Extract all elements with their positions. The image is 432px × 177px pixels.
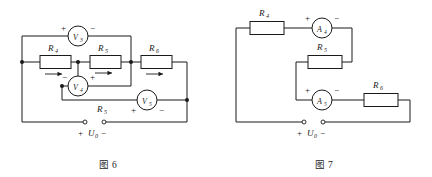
resistor-r5-body [308, 56, 342, 69]
rheostat-r5-top-body [90, 56, 121, 69]
ammeter-a5-plus-sign: + [305, 85, 310, 95]
resistor-r6-label: R [372, 80, 379, 90]
ammeter-a5 [312, 90, 332, 110]
rheostat-r6-subscript: 6 [156, 48, 159, 54]
source-subscript: 0 [95, 133, 98, 139]
figure-6: V 3 + − R 4 R 5 R 6 [0, 0, 216, 177]
wire-source-left [236, 28, 304, 122]
rheostat-r4-label: R [47, 43, 54, 53]
ammeter-a5-label: A [316, 97, 322, 106]
resistor-r6-body [364, 94, 398, 107]
wire-r6-to-right-rail [172, 62, 187, 100]
figure-7: R 4 A 4 + − R 5 A 5 + − [216, 0, 432, 177]
node-dot-r5-r6 [129, 60, 133, 64]
figure-6-caption: 图 6 [0, 157, 216, 171]
figure-6-circuit: V 3 + − R 4 R 5 R 6 [0, 0, 216, 150]
voltmeter-v3-plus-sign: + [61, 23, 66, 33]
rheostat-r4-subscript: 4 [55, 48, 58, 54]
voltmeter-v4-plus-sign: + [90, 72, 95, 82]
wire-r6-to-bottom [398, 100, 410, 122]
source-subscript: 0 [314, 133, 317, 139]
source-minus-sign: − [101, 128, 106, 138]
voltmeter-v5-minus-sign: − [159, 105, 164, 115]
voltmeter-v3-minus-sign: − [90, 23, 95, 33]
figure-7-caption: 图 7 [216, 157, 432, 171]
voltmeter-v5 [137, 90, 157, 110]
resistor-r5-subscript: 5 [324, 47, 327, 53]
rheostat-r6-label: R [148, 43, 155, 53]
source-plus-sign: + [78, 128, 83, 138]
ammeter-a4 [312, 18, 332, 38]
source-terminal-positive [83, 120, 87, 124]
source-minus-sign: − [320, 128, 325, 138]
resistor-r5-label: R [316, 42, 323, 52]
source-plus-sign: + [297, 128, 302, 138]
node-dot-right-rail [185, 98, 189, 102]
rheostat-r5-top-label: R [97, 43, 104, 53]
voltmeter-v3-subscript: 3 [79, 37, 83, 43]
ammeter-a4-plus-sign: + [305, 13, 310, 23]
ammeter-a4-subscript: 4 [324, 29, 327, 35]
ammeter-a5-minus-sign: − [334, 85, 339, 95]
source-terminal-positive [302, 120, 306, 124]
voltmeter-v3 [68, 26, 88, 46]
voltmeter-v4 [68, 76, 88, 96]
ammeter-a4-label: A [316, 25, 322, 34]
node-dot-r4-r5 [76, 60, 80, 64]
ammeter-a5-subscript: 5 [324, 101, 327, 107]
rheostat-r6-body [141, 56, 172, 69]
rheostat-r6-arrow-head [159, 72, 164, 76]
resistor-r6-subscript: 6 [380, 85, 383, 91]
source-terminal-negative [102, 120, 106, 124]
source-label: U [88, 128, 95, 138]
source-label: U [307, 128, 314, 138]
voltmeter-v5-plus-sign: + [131, 105, 136, 115]
rheostat-r5-bottom-label: R [96, 104, 103, 114]
rheostat-r5-top-subscript: 5 [105, 48, 108, 54]
resistor-r4-label: R [258, 8, 265, 18]
node-dot-v4-left [60, 84, 64, 88]
voltmeter-v5-subscript: 5 [149, 101, 152, 107]
rheostat-r4-body [40, 56, 71, 69]
resistor-r4-subscript: 4 [266, 13, 269, 19]
rheostat-r5-bottom-subscript: 5 [104, 109, 107, 115]
source-terminal-negative [321, 120, 325, 124]
ammeter-a4-minus-sign: − [334, 13, 339, 23]
voltmeter-v4-subscript: 4 [80, 87, 83, 93]
node-dot-left-rail [20, 60, 24, 64]
rheostat-r5-top-arrow-head [108, 71, 113, 75]
resistor-r4-body [250, 22, 284, 35]
wire-v4-left-branch [62, 86, 68, 100]
figure-7-circuit: R 4 A 4 + − R 5 A 5 + − [216, 0, 432, 150]
diagram-page: V 3 + − R 4 R 5 R 6 [0, 0, 432, 177]
voltmeter-v4-minus-sign: − [62, 72, 67, 82]
